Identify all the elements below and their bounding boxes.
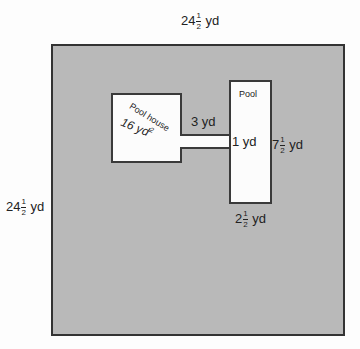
yard-top-dimension: 2412 yd xyxy=(181,12,219,31)
walkway-length-label: 3 yd xyxy=(191,115,216,128)
fraction-numerator: 1 xyxy=(280,136,284,145)
dimension-whole: 24 xyxy=(6,199,20,214)
fraction-numerator: 1 xyxy=(243,210,247,219)
fraction-numerator: 1 xyxy=(21,198,25,207)
pool-width-dimension: 212 yd xyxy=(235,210,266,229)
dimension-unit: yd xyxy=(252,211,266,226)
yard-rectangle xyxy=(51,44,345,336)
dimension-unit: yd xyxy=(206,13,220,28)
fraction-denominator: 2 xyxy=(21,207,25,217)
yard-left-dimension: 2412 yd xyxy=(6,198,44,217)
walkway-width-label: 1 yd xyxy=(232,135,257,148)
fraction: 12 xyxy=(196,12,200,31)
fraction-denominator: 2 xyxy=(243,219,247,229)
fraction-numerator: 1 xyxy=(196,12,200,21)
fraction-denominator: 2 xyxy=(196,21,200,31)
dimension-whole: 2 xyxy=(235,211,242,226)
dimension-unit: yd xyxy=(31,199,45,214)
walkway xyxy=(180,134,229,149)
pool-label: Pool xyxy=(239,89,257,99)
dimension-unit: yd xyxy=(289,137,303,152)
fraction: 12 xyxy=(280,136,284,155)
dimension-whole: 7 xyxy=(272,137,279,152)
fraction-denominator: 2 xyxy=(280,145,284,155)
fraction: 12 xyxy=(21,198,25,217)
pool-height-dimension: 712 yd xyxy=(272,136,303,155)
dimension-whole: 24 xyxy=(181,13,195,28)
fraction: 12 xyxy=(243,210,247,229)
